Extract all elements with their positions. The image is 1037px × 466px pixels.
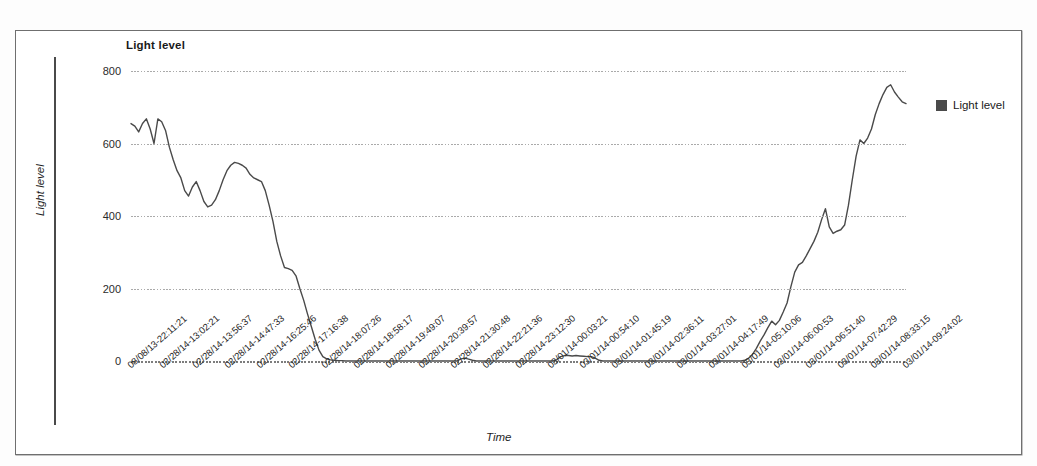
gridline-800: 800 xyxy=(131,71,906,72)
y-axis-title: Light level xyxy=(34,164,46,216)
gridline-400: 400 xyxy=(131,216,906,217)
y-tick-label: 800 xyxy=(103,65,121,77)
x-tick-label: 03/01/14-09:24:02 xyxy=(900,313,964,371)
y-tick-label: 400 xyxy=(103,210,121,222)
y-tick-label: 600 xyxy=(103,138,121,150)
x-axis-title: Time xyxy=(486,431,511,443)
gridline-200: 200 xyxy=(131,289,906,290)
scanned-page-background: Light level Light level Time 02004006008… xyxy=(0,0,1037,466)
y-tick-label: 0 xyxy=(115,355,121,367)
legend-swatch-icon xyxy=(936,100,947,111)
gridline-600: 600 xyxy=(131,144,906,145)
y-axis-spine xyxy=(54,57,56,425)
legend-label: Light level xyxy=(953,99,1005,111)
chart-title: Light level xyxy=(126,39,185,51)
chart-frame: Light level Light level Time 02004006008… xyxy=(15,30,1022,455)
y-tick-label: 200 xyxy=(103,283,121,295)
chart-legend: Light level xyxy=(936,99,1005,111)
